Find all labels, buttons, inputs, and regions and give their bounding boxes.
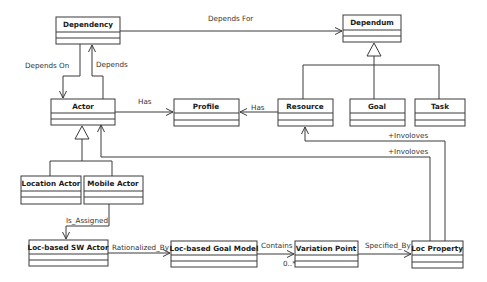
edge-generalization-actor — [50, 161, 112, 176]
label-depends-for: Depends For — [208, 14, 253, 23]
label-depends-on: Depends On — [25, 61, 69, 70]
class-name: Loc-based SW Actor — [28, 243, 109, 252]
class-name: Loc-based Goal Model — [170, 244, 259, 253]
edge-involves-actor — [101, 125, 430, 241]
class-loc-based-sw-actor[interactable]: Loc-based SW Actor — [28, 240, 109, 266]
class-name: Mobile Actor — [87, 179, 139, 188]
label-rationalized-by: Rationalized_By — [112, 243, 170, 252]
class-variation-point[interactable]: Variation Point — [295, 241, 358, 267]
class-actor[interactable]: Actor — [51, 99, 115, 125]
label-has-actor: Has — [138, 97, 152, 106]
class-goal[interactable]: Goal — [350, 99, 405, 126]
class-name: Actor — [72, 102, 94, 111]
label-contains: Contains — [261, 241, 293, 250]
class-location-actor[interactable]: Location Actor — [21, 176, 81, 204]
class-name: Resource — [286, 102, 324, 111]
class-name: Variation Point — [296, 244, 357, 253]
edge-involves-resource — [305, 127, 445, 241]
class-dependum[interactable]: Dependum — [343, 15, 401, 42]
label-multiplicity: 0..* — [283, 259, 296, 268]
class-profile[interactable]: Profile — [174, 99, 239, 126]
class-name: Task — [431, 102, 449, 111]
generalization-triangle-actor — [75, 126, 89, 139]
edge-generalization-dependum — [303, 65, 439, 99]
label-specified-by: Specified_By — [365, 241, 412, 250]
class-loc-property[interactable]: Loc Property — [411, 241, 463, 268]
label-involves-actor: +Involoves — [388, 147, 428, 156]
class-resource[interactable]: Resource — [278, 99, 333, 126]
uml-class-diagram: Depends For Depends On Depends Has Has +… — [0, 0, 487, 282]
edge-depends — [92, 45, 103, 99]
label-depends: Depends — [96, 60, 128, 69]
edge-depends-on — [63, 44, 80, 98]
generalization-triangle-dependum — [367, 43, 381, 56]
label-involves-resource: +Involoves — [388, 131, 428, 140]
label-has-resource: Has — [251, 103, 265, 112]
class-name: Profile — [193, 102, 220, 111]
class-dependency[interactable]: Dependency — [56, 17, 120, 44]
label-is-assigned: Is_Assigned — [66, 216, 108, 225]
class-name: Location Actor — [22, 179, 81, 188]
class-name: Goal — [368, 102, 386, 111]
class-name: Loc Property — [411, 244, 463, 253]
class-task[interactable]: Task — [415, 99, 465, 126]
class-name: Dependency — [63, 20, 113, 29]
class-mobile-actor[interactable]: Mobile Actor — [84, 176, 143, 204]
class-name: Dependum — [350, 18, 394, 27]
class-loc-based-goal-model[interactable]: Loc-based Goal Model — [170, 241, 259, 267]
